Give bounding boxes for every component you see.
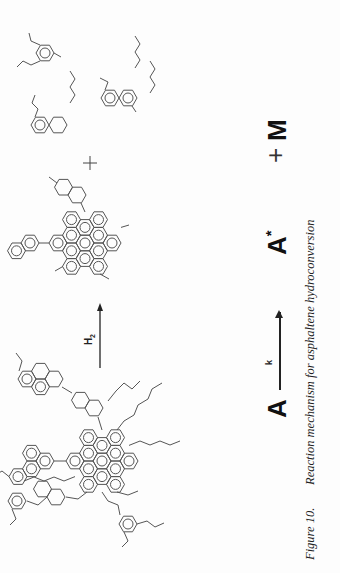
- fragment-molecules: [17, 33, 155, 133]
- h2-label: H: [83, 338, 94, 345]
- reaction-scheme-figure: H 2: [0, 0, 200, 573]
- figure-caption: Figure 10. Reaction mechanism for asphal…: [303, 0, 323, 573]
- asphaltene-molecule: [0, 353, 180, 547]
- reactant-a: A: [262, 399, 293, 418]
- rate-constant-k: k: [264, 360, 274, 365]
- figure-label: Figure 10.: [303, 508, 318, 560]
- kinetic-equation: A k A* + M: [258, 0, 308, 573]
- chemical-structures: H 2: [0, 0, 200, 573]
- rotated-content: H 2 A k A* + M Figure 10. Reaction mecha…: [0, 0, 340, 573]
- h2-subscript: 2: [89, 334, 96, 338]
- caption-text: Reaction mechanism for asphaltene hydroc…: [303, 220, 318, 485]
- plus-sign-products: [83, 156, 97, 170]
- product-m: M: [262, 119, 293, 141]
- reaction-arrow-icon: [279, 312, 281, 390]
- product-core-molecule: [8, 177, 130, 279]
- h2-reaction-arrow: [97, 303, 103, 368]
- product-a-star: A*: [262, 230, 293, 255]
- equation-plus: +: [260, 148, 291, 163]
- paper-page: H 2 A k A* + M Figure 10. Reaction mecha…: [0, 0, 340, 573]
